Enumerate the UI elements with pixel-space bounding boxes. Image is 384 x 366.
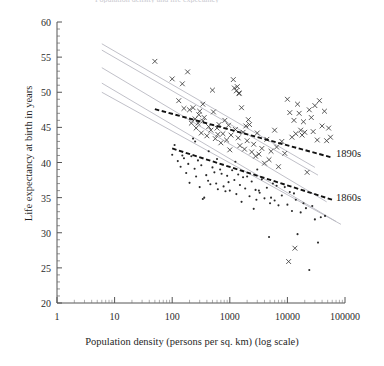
marker-dot [286,204,288,206]
marker-dot [180,166,182,168]
marker-dot [213,171,215,173]
marker-x [293,246,298,251]
marker-dot [268,236,270,238]
marker-dot [274,199,276,201]
marker-x [227,147,232,152]
marker-x [309,115,314,120]
marker-x [237,91,242,96]
marker-dot [227,181,229,183]
marker-dot [199,186,201,188]
marker-dot [226,175,228,177]
y-tick-label-30: 30 [22,227,51,238]
marker-dot [253,208,255,210]
marker-x [199,131,204,136]
marker-dot [291,210,293,212]
marker-dot [188,182,190,184]
marker-x [322,109,327,114]
marker-x [211,110,216,115]
marker-x [272,128,277,133]
marker-dot [241,201,243,203]
marker-x [315,138,320,143]
marker-dot [215,183,217,185]
marker-dot [216,158,218,160]
marker-x [286,259,291,264]
marker-x [320,124,325,129]
marker-x [152,59,157,64]
marker-dot [239,184,241,186]
marker-x [229,133,234,138]
series-label-1890s: 1890s [336,148,361,159]
marker-x [276,164,281,169]
marker-dot [314,218,316,220]
y-tick-label-55: 55 [22,52,51,63]
marker-dot [263,197,265,199]
marker-dot [181,154,183,156]
marker-dot [296,233,298,235]
marker-dot [242,176,244,178]
marker-dot [320,216,322,218]
marker-dot [311,205,313,207]
x-tick-label-1: 1 [55,311,60,322]
marker-dot [190,155,192,157]
x-tick-label-100: 100 [165,311,180,322]
marker-x [297,111,302,116]
marker-dot [272,183,274,185]
marker-x [197,109,202,114]
y-tick-label-45: 45 [22,122,51,133]
y-tick-label-60: 60 [22,17,51,28]
marker-dot [235,193,237,195]
y-tick-label-35: 35 [22,192,51,203]
marker-dot [205,174,207,176]
marker-dot [276,185,278,187]
marker-dot [324,215,326,217]
marker-x [236,136,241,141]
marker-dot [300,211,302,213]
axes-group [57,22,345,303]
x-tick-label-1000: 1000 [220,311,240,322]
marker-x [176,98,181,103]
marker-x [194,126,199,131]
reference-line-4 [102,83,336,221]
marker-dot [229,190,231,192]
marker-x [301,119,306,124]
marker-dot [234,161,236,163]
fit-lines-group [155,109,332,200]
marker-x [269,149,274,154]
marker-x [231,77,236,82]
marker-x [317,98,322,103]
marker-x [237,91,242,96]
marker-x [170,77,175,82]
marker-dot [194,168,196,170]
marker-dot [217,188,219,190]
marker-dot [258,190,260,192]
1860s-fit [172,148,332,199]
marker-x [292,118,297,123]
marker-dot [259,192,261,194]
y-tick-label-20: 20 [22,298,51,309]
marker-dot [194,140,196,142]
marker-dot [261,178,263,180]
y-tick-label-50: 50 [22,87,51,98]
marker-dot [200,164,202,166]
marker-dot [255,199,257,201]
marker-x [246,117,251,122]
marker-dot [219,168,221,170]
marker-dot [308,269,310,271]
marker-x [293,131,298,136]
marker-x [305,170,310,175]
marker-x [238,143,243,148]
marker-x [259,146,264,151]
marker-x [326,126,331,131]
marker-x [295,102,300,107]
marker-x [287,110,292,115]
marker-dot [237,173,239,175]
marker-dot [192,138,194,140]
x-tick-label-10000: 10000 [275,311,300,322]
marker-x [213,136,218,141]
marker-dot [256,168,258,170]
data-points-group [152,59,332,271]
marker-dot [208,150,210,152]
marker-dot [255,189,257,191]
series-label-1860s: 1860s [336,192,361,203]
marker-dot [223,185,225,187]
